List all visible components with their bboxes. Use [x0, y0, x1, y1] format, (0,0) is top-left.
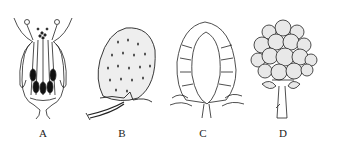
panel-d-raspberry-drawing — [251, 20, 317, 118]
botanical-figure: A B C D — [0, 0, 340, 148]
panel-b-strawberry-drawing — [86, 28, 155, 120]
panel-a-flower-section-drawing — [14, 18, 72, 119]
panel-d-label: D — [273, 127, 293, 139]
panel-a-label: A — [33, 127, 53, 139]
panel-c-label: C — [193, 127, 213, 139]
figure-drawing — [0, 0, 340, 148]
panel-c-strawberry-section-drawing — [170, 22, 244, 118]
panel-b-label: B — [112, 127, 132, 139]
